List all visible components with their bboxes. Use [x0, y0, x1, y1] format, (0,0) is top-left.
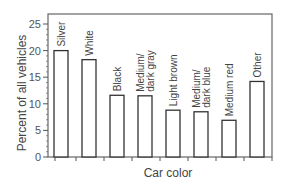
bar-category-label: Black [112, 66, 123, 91]
bar-group: Light brown [166, 54, 180, 157]
bar-group: Medium/dark gray [135, 50, 156, 157]
bar-group: White [82, 30, 96, 157]
y-tick-label: 25 [29, 18, 41, 30]
bar-group: Medium red [222, 63, 236, 157]
y-tick-label: 20 [29, 45, 41, 57]
bar-category-label: dark gray [145, 50, 156, 92]
bar [250, 81, 264, 157]
bar-category-label: Medium red [224, 63, 235, 116]
x-axis-title: Car color [144, 166, 193, 180]
y-tick-label: 15 [29, 71, 41, 83]
y-axis-title: Percent of all vehicles [15, 35, 29, 152]
bar-group: Medium/dark blue [191, 66, 212, 157]
bar-category-label: White [84, 30, 95, 56]
bar [222, 120, 236, 157]
bar [110, 95, 124, 157]
y-tick-label: 0 [35, 151, 41, 163]
bar-group: Other [250, 52, 264, 157]
bar [138, 96, 152, 157]
bar-group: Black [110, 66, 124, 157]
y-tick-label: 10 [29, 98, 41, 110]
y-axis: 0510152025 [29, 18, 48, 163]
bar-category-label: Silver [56, 21, 67, 47]
bar [82, 60, 96, 157]
bar-group: Silver [54, 21, 68, 157]
bar-category-label: Light brown [168, 54, 179, 106]
y-tick-label: 5 [35, 124, 41, 136]
bar [166, 110, 180, 157]
bar-category-label: Other [252, 52, 263, 78]
bar [54, 51, 68, 157]
bars: SilverWhiteBlackMedium/dark grayLight br… [54, 21, 264, 157]
bar [194, 112, 208, 157]
bar-category-label: dark blue [201, 66, 212, 108]
bar-chart: 0510152025 SilverWhiteBlackMedium/dark g… [0, 0, 285, 190]
